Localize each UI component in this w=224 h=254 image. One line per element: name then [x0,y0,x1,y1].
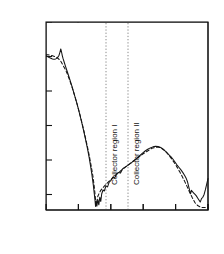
collector-region-2-label: Collector region II [132,122,141,185]
simulated-profile-dashed-line [46,55,208,208]
net-concentration-depth-profile-chart: Poly-Mono interface Collector region I C… [0,0,224,254]
mask-left [0,0,46,254]
plot-frame-overlay [46,22,208,210]
y-axis-ticks [46,22,52,195]
measured-profile-solid-line [46,49,208,207]
x-axis-ticks-overlay [46,204,208,210]
collector-region-1-label: Collector region I [110,125,119,185]
x-axis-ticks [46,204,208,210]
plot-frame [46,22,208,210]
chart-canvas: Poly-Mono interface Collector region I C… [0,0,224,254]
data-series-group [46,49,208,208]
figure-root: Poly-Mono interface Collector region I C… [0,0,224,254]
mask-right [209,0,224,254]
